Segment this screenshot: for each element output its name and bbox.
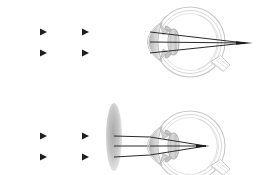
ray-arrowhead-icon (82, 133, 89, 140)
ray-arrowhead-icon (82, 154, 89, 161)
ray-arrowhead-icon (82, 29, 89, 36)
diagram-canvas (0, 0, 258, 175)
incident-rays-uncorrected (14, 29, 150, 57)
panel-uncorrected (14, 7, 253, 77)
ray-arrowhead-icon (40, 29, 47, 36)
panel-corrected (14, 103, 230, 175)
incident-rays-corrected (14, 133, 114, 161)
ray-arrowhead-icon (82, 50, 89, 57)
spectacle-lens-body (106, 103, 122, 171)
ray-arrowhead-icon (40, 50, 47, 57)
eye-refraction-figure (0, 0, 258, 175)
ray-arrowhead-icon (40, 154, 47, 161)
focal-point-marker (236, 41, 253, 45)
ray-arrowhead-icon (40, 133, 47, 140)
corrective-converging-lens (106, 103, 122, 171)
